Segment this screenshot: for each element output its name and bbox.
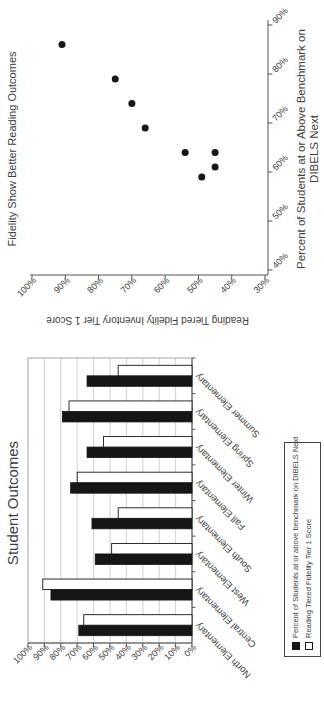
charts-canvas: 0%10%20%30%40%50%60%70%80%90%100%North E… bbox=[0, 0, 324, 709]
bar-dibels bbox=[79, 625, 192, 636]
scatter-y-tick-label: 80% bbox=[85, 275, 105, 295]
scatter-x-tick-label: 80% bbox=[270, 55, 290, 75]
bar-dibels bbox=[51, 590, 192, 601]
rotated-canvas: Student Outcomes Fidelity Show Better Re… bbox=[0, 0, 324, 709]
scatter-x-tick-label: 40% bbox=[270, 251, 290, 271]
bar-y-tick-label: 70% bbox=[64, 642, 84, 662]
scatter-y-tick-label: 60% bbox=[152, 275, 172, 295]
screenshot-root: Student Outcomes Fidelity Show Better Re… bbox=[0, 0, 324, 709]
legend-label-dibels: Percent of Students at or above benchmar… bbox=[291, 437, 300, 638]
bar-y-tick-label: 10% bbox=[162, 642, 182, 662]
bar-tfi bbox=[69, 401, 192, 412]
scatter-x-tick-label: 70% bbox=[270, 104, 290, 124]
bar-y-tick-label: 80% bbox=[47, 642, 67, 662]
scatter-x-tick-label: 90% bbox=[270, 6, 290, 26]
legend-swatch-black bbox=[292, 642, 300, 650]
bar-dibels bbox=[87, 376, 192, 387]
bar-y-tick-label: 40% bbox=[113, 642, 133, 662]
scatter-y-tick-label: 50% bbox=[185, 275, 205, 295]
legend-row-tfi: Reading Tiered Fidelity Tier 1 Score bbox=[302, 443, 315, 650]
bar-tfi bbox=[43, 579, 192, 590]
bar-y-tick-label: 30% bbox=[129, 642, 149, 662]
scatter-point bbox=[182, 149, 189, 156]
bar-tfi bbox=[103, 437, 192, 448]
bar-dibels bbox=[62, 411, 192, 422]
bar-y-tick-label: 20% bbox=[146, 642, 166, 662]
bar-chart-legend: Percent of Students at or above benchmar… bbox=[284, 442, 321, 657]
bar-dibels bbox=[71, 483, 192, 494]
scatter-y-tick-label: 70% bbox=[118, 275, 138, 295]
bar-y-tick-label: 0% bbox=[182, 642, 198, 658]
bar-category-label: Summer Elementary bbox=[192, 371, 261, 440]
scatter-y-tick-label: 30% bbox=[252, 275, 272, 295]
bar-category-label: Central Elementary bbox=[192, 585, 257, 650]
bar-dibels bbox=[87, 447, 192, 458]
scatter-point bbox=[58, 41, 65, 48]
scatter-x-tick-label: 50% bbox=[270, 202, 290, 222]
scatter-y-tick-label: 100% bbox=[15, 275, 38, 298]
legend-row-dibels: Percent of Students at or above benchmar… bbox=[289, 443, 302, 650]
bar-dibels bbox=[92, 518, 192, 529]
scatter-y-tick-label: 90% bbox=[52, 275, 72, 295]
legend-label-tfi: Reading Tiered Fidelity Tier 1 Score bbox=[304, 519, 313, 638]
bar-tfi bbox=[118, 508, 192, 519]
scatter-point bbox=[142, 124, 149, 131]
scatter-point bbox=[198, 173, 205, 180]
scatter-point bbox=[112, 75, 119, 82]
bar-dibels bbox=[95, 554, 192, 565]
scatter-point bbox=[128, 100, 135, 107]
bar-tfi bbox=[77, 472, 192, 483]
bar-tfi bbox=[84, 615, 192, 626]
scatter-y-tick-label: 40% bbox=[218, 275, 238, 295]
scatter-axes bbox=[30, 20, 268, 275]
bar-tfi bbox=[112, 543, 192, 554]
bar-y-tick-label: 50% bbox=[97, 642, 117, 662]
legend-swatch-white bbox=[305, 642, 313, 650]
scatter-x-tick-label: 60% bbox=[270, 153, 290, 173]
scatter-point bbox=[212, 149, 219, 156]
bar-y-tick-label: 60% bbox=[80, 642, 100, 662]
scatter-point bbox=[212, 164, 219, 171]
bar-y-tick-label: 90% bbox=[31, 642, 51, 662]
bar-tfi bbox=[118, 365, 192, 376]
